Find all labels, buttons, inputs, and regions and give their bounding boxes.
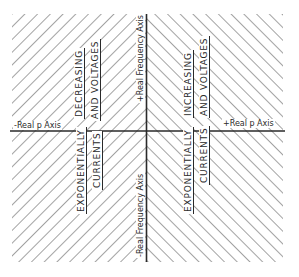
right-top-label-line1: INCREASING	[183, 50, 194, 118]
negative-real-p-axis-label: -Real p Axis	[13, 121, 62, 130]
left-top-label-line2: AND VOLTAGES	[90, 39, 101, 121]
positive-real-p-axis-text: +Real p Axis	[223, 119, 274, 128]
left-bottom-label-line2: CURRENTS	[92, 131, 103, 190]
positive-real-frequency-axis-label: +Real Frequency Axis	[136, 14, 145, 103]
right-bottom-label-line1: EXPONENTIALLY	[183, 127, 194, 214]
right-half-plane-hatch	[147, 14, 283, 262]
hatch-and-axes-graphic	[0, 0, 299, 277]
left-bottom-label-line1: EXPONENTIALLY	[76, 127, 87, 214]
positive-real-frequency-axis-text: +Real Frequency Axis	[136, 15, 145, 102]
left-top-label-line1: DECREASING	[74, 48, 85, 119]
negative-real-p-axis-text: -Real p Axis	[14, 121, 61, 130]
right-bottom-label-line2: CURRENTS	[199, 126, 210, 185]
negative-real-frequency-axis-text: -Real Frequency Axis	[136, 174, 145, 257]
right-top-label-line2: AND VOLTAGES	[199, 36, 210, 118]
p-plane-diagram: -Real p Axis +Real p Axis +Real Frequenc…	[0, 0, 299, 277]
positive-real-p-axis-label: +Real p Axis	[222, 119, 275, 128]
negative-real-frequency-axis-label: -Real Frequency Axis	[136, 173, 145, 258]
